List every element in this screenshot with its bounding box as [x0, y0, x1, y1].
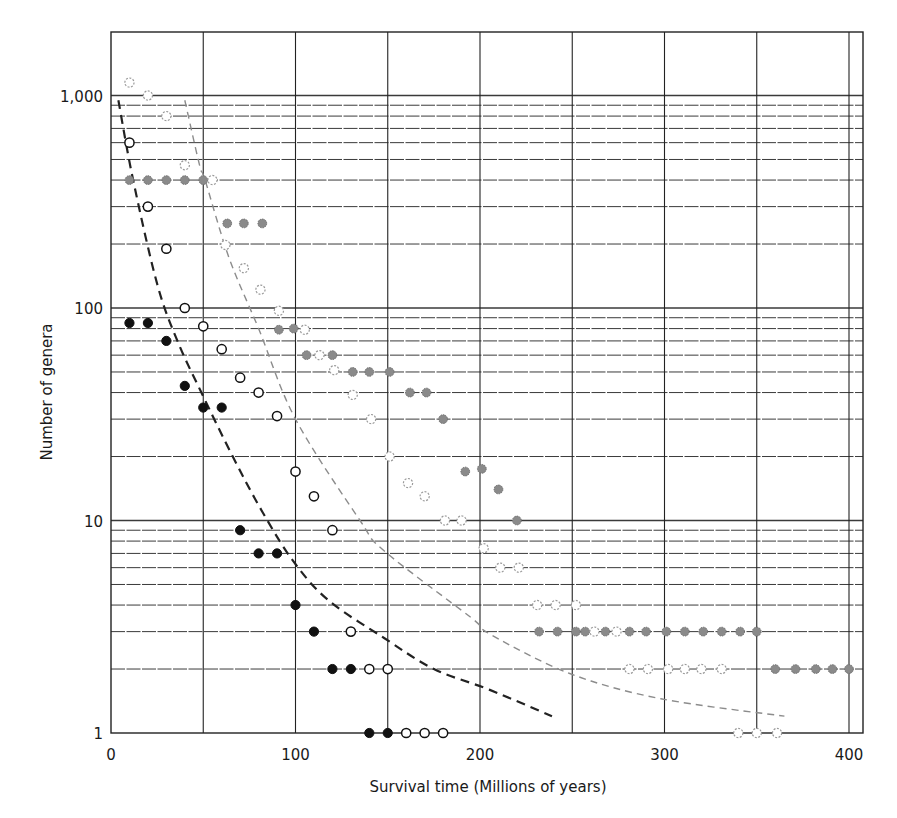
gray-open-point: [385, 452, 394, 461]
gray-open-point: [533, 600, 542, 609]
gray-filled-point: [422, 388, 431, 397]
vertical-gridlines: [203, 32, 849, 733]
black-open-point: [402, 728, 411, 737]
y-axis-ticks: 1101001,000: [60, 88, 103, 744]
gray-filled-point: [535, 627, 544, 636]
gray-open-point: [420, 492, 429, 501]
black-filled-point: [291, 600, 300, 609]
x-tick-label: 200: [466, 746, 495, 764]
black-open-point: [236, 373, 245, 382]
black-open-point: [217, 345, 226, 354]
gray-filled-point: [461, 467, 470, 476]
black-filled-point: [199, 403, 208, 412]
gray-open-point: [734, 728, 743, 737]
black-filled-point: [365, 728, 374, 737]
gray-filled-point: [752, 627, 761, 636]
gray-filled-point: [513, 516, 522, 525]
gray-filled-point: [199, 176, 208, 185]
black-filled-point: [328, 664, 337, 673]
gray-filled-point: [477, 464, 486, 473]
gray-open-point: [697, 664, 706, 673]
gray-filled-point: [302, 351, 311, 360]
black-open-point: [180, 303, 189, 312]
gray-open-point: [330, 366, 339, 375]
black-filled-point: [309, 627, 318, 636]
horizontal-gridlines: [111, 96, 863, 670]
black-filled-point: [217, 403, 226, 412]
gray-filled-point: [289, 324, 298, 333]
gray-filled-point: [811, 665, 820, 674]
black-filled-point: [236, 526, 245, 535]
gray-open-point: [752, 728, 761, 737]
black-filled-point: [254, 549, 263, 558]
y-tick-label: 100: [74, 300, 103, 318]
gray-filled-point: [699, 627, 708, 636]
black-filled-point: [383, 728, 392, 737]
gray-filled-point: [791, 665, 800, 674]
gray-filled-point: [328, 351, 337, 360]
gray-open-point: [551, 600, 560, 609]
gray-filled-point: [274, 325, 283, 334]
gray-open-point: [664, 664, 673, 673]
gray-filled-point: [717, 627, 726, 636]
x-tick-label: 400: [835, 746, 864, 764]
gray-open-point: [256, 285, 265, 294]
black-filled-point: [272, 549, 281, 558]
gray-open-point: [239, 264, 248, 273]
y-tick-label: 1: [93, 725, 103, 743]
black-open-point: [328, 526, 337, 535]
gray-filled-point: [439, 415, 448, 424]
black-open-point: [291, 467, 300, 476]
gray-filled-point: [494, 485, 503, 494]
gray-filled-point: [405, 388, 414, 397]
gray-open-point: [180, 161, 189, 170]
gray-filled-point: [828, 665, 837, 674]
gray-open-point: [590, 627, 599, 636]
gray-filled-point: [223, 219, 232, 228]
gray-open-point: [208, 175, 217, 184]
black-open-point: [383, 664, 392, 673]
y-axis-title: Number of genera: [38, 323, 56, 460]
gray-filled-point: [642, 627, 651, 636]
x-tick-label: 300: [650, 746, 679, 764]
black-open-point: [143, 202, 152, 211]
gray-open-point: [274, 306, 283, 315]
gray-open-point: [315, 351, 324, 360]
gray-filled-point: [385, 368, 394, 377]
gray-filled-point: [771, 665, 780, 674]
gray-open-point: [403, 478, 412, 487]
gray-open-point: [348, 390, 357, 399]
gray-filled-point: [348, 368, 357, 377]
black-open-point: [162, 244, 171, 253]
black-filled-point: [143, 318, 152, 327]
gray-open-point: [457, 516, 466, 525]
gray-filled-point: [125, 176, 134, 185]
black-open-point: [125, 138, 134, 147]
gray-filled-point: [180, 176, 189, 185]
gray-filled-point: [572, 627, 581, 636]
gray-open-point: [479, 544, 488, 553]
gray-filled-point: [144, 176, 153, 185]
gray-filled-point: [239, 219, 248, 228]
gray-open-point: [625, 664, 634, 673]
black-open-point: [439, 728, 448, 737]
black-filled-point: [162, 336, 171, 345]
black-open-point: [272, 411, 281, 420]
black-open-point: [346, 627, 355, 636]
gray-filled-point: [162, 176, 171, 185]
black-open-point: [199, 322, 208, 331]
plot-frame: [111, 32, 863, 733]
x-axis-ticks: 0100200300400: [106, 746, 863, 764]
gray-filled-point: [662, 627, 671, 636]
x-axis-title: Survival time (Millions of years): [370, 778, 607, 796]
gray-open-point: [125, 78, 134, 87]
data-points: [125, 78, 854, 738]
black-open-point: [420, 728, 429, 737]
survival-chart: 0100200300400 1101001,000 Survival time …: [0, 0, 897, 818]
gray-open-point: [514, 563, 523, 572]
black-open-point: [254, 388, 263, 397]
gray-open-point: [772, 728, 781, 737]
black-filled-point: [180, 381, 189, 390]
gray-open-point: [143, 91, 152, 100]
gray-filled-point: [845, 665, 854, 674]
